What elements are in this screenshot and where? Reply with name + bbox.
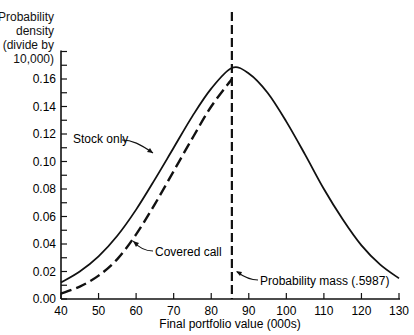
y-tick-label: 0.08 xyxy=(33,182,57,196)
y-tick-label: 0.00 xyxy=(33,292,57,306)
probability-mass-label: Probability mass (.5987) xyxy=(260,274,389,288)
y-tick-label: 0.04 xyxy=(33,237,57,251)
x-tick-label: 80 xyxy=(205,304,219,318)
x-tick-label: 130 xyxy=(389,304,409,318)
x-tick-label: 70 xyxy=(167,304,181,318)
x-tick-label: 110 xyxy=(314,304,333,318)
stock-only-label: Stock only xyxy=(73,132,128,146)
x-tick-label: 50 xyxy=(92,304,106,318)
series-lines xyxy=(61,67,399,293)
x-tick-label: 100 xyxy=(276,304,296,318)
x-tick-label: 120 xyxy=(351,304,371,318)
x-tick-label: 40 xyxy=(54,304,68,318)
y-tick-label: 0.16 xyxy=(33,72,57,86)
probability-density-chart: 0.000.020.040.060.080.100.120.140.164050… xyxy=(0,0,414,335)
x-tick-label: 90 xyxy=(242,304,256,318)
x-axis-label: Final portfolio value (000s) xyxy=(159,317,300,331)
covered-call-curve xyxy=(61,79,232,294)
y-tick-label: 0.14 xyxy=(33,100,57,114)
arrowhead-icon xyxy=(147,148,153,153)
stock-only-curve xyxy=(61,67,399,282)
y-tick-label: 0.06 xyxy=(33,210,57,224)
y-tick-label: 0.02 xyxy=(33,265,57,279)
y-tick-label: 0.12 xyxy=(33,127,57,141)
x-tick-label: 60 xyxy=(129,304,143,318)
y-tick-label: 0.10 xyxy=(33,155,57,169)
covered-call-label: Covered call xyxy=(155,245,222,259)
